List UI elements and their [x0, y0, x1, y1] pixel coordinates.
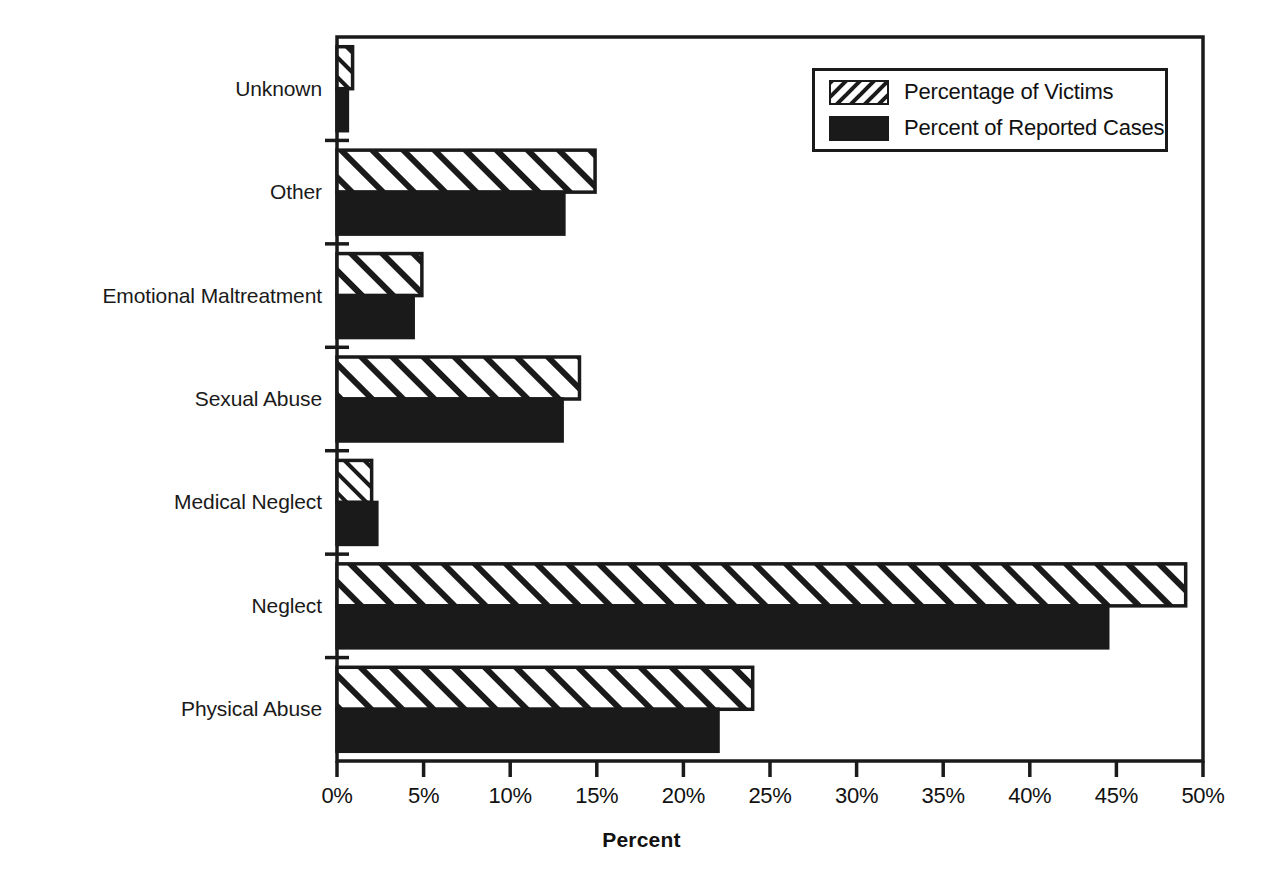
y-axis-label-other: Other [270, 181, 322, 202]
y-axis-label-medical-neglect: Medical Neglect [174, 491, 322, 512]
bar-victims [337, 254, 422, 296]
bar-reported-cases [337, 709, 718, 751]
legend-label-reported-cases: Percent of Reported Cases [904, 117, 1164, 139]
bar-victims [337, 47, 353, 89]
y-axis-label-physical-abuse: Physical Abuse [181, 698, 322, 719]
solid-black-swatch-icon [829, 116, 889, 141]
bar-victims [337, 564, 1186, 606]
bar-reported-cases [337, 296, 413, 338]
bar-victims [337, 357, 579, 399]
x-tick-label: 40% [1008, 785, 1051, 807]
x-tick-label: 20% [662, 785, 705, 807]
bars-group [337, 47, 1186, 752]
x-tick-label: 10% [489, 785, 532, 807]
legend-item-reported-cases: Percent of Reported Cases [829, 113, 1164, 143]
y-axis-label-unknown: Unknown [235, 78, 322, 99]
x-axis-title: Percent [0, 828, 1283, 852]
hatched-swatch-icon [829, 80, 889, 105]
x-tick-label: 50% [1181, 785, 1224, 807]
x-tick-label: 15% [575, 785, 618, 807]
legend-item-victims: Percentage of Victims [829, 77, 1113, 107]
y-axis-label-sexual-abuse: Sexual Abuse [195, 388, 322, 409]
bar-victims [337, 667, 753, 709]
bar-reported-cases [337, 399, 562, 441]
x-tick-label: 30% [835, 785, 878, 807]
x-axis-ticks [337, 761, 1203, 777]
bar-reported-cases [337, 192, 564, 234]
bar-reported-cases [337, 606, 1108, 648]
bar-victims [337, 460, 372, 502]
x-tick-label: 5% [408, 785, 439, 807]
x-tick-label: 0% [321, 785, 352, 807]
y-axis-label-emotional-maltreatment: Emotional Maltreatment [102, 285, 322, 306]
bar-reported-cases [337, 89, 347, 131]
x-tick-label: 45% [1095, 785, 1138, 807]
bar-reported-cases [337, 502, 377, 544]
legend-label-victims: Percentage of Victims [904, 81, 1113, 103]
bar-victims [337, 150, 595, 192]
x-tick-label: 35% [922, 785, 965, 807]
legend: Percentage of Victims Percent of Reporte… [812, 68, 1168, 152]
bar-chart: UnknownOtherEmotional MaltreatmentSexual… [0, 0, 1283, 896]
y-axis-label-neglect: Neglect [251, 595, 322, 616]
x-tick-label: 25% [748, 785, 791, 807]
